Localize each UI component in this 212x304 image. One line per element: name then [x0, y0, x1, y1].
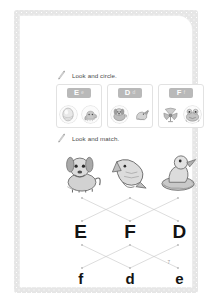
letter-tag-e: E e	[67, 88, 91, 98]
instruction-look-and-match: Look and match.	[56, 133, 119, 144]
letter-card-pictures	[159, 100, 203, 128]
letter-card-f[interactable]: F f	[158, 84, 204, 128]
worksheet-page: Look and circle. E e	[0, 0, 212, 304]
uppercase-letter-0[interactable]: E	[56, 222, 105, 242]
lowercase-letter-0[interactable]: f	[56, 271, 105, 289]
uppercase-letter-1[interactable]: F	[105, 222, 154, 242]
instruction-2-text: Look and match.	[72, 135, 119, 142]
uppercase-letter-2[interactable]: D	[155, 222, 204, 242]
letter-tag-lowercase: f	[183, 90, 185, 95]
match-lines-upper	[56, 196, 204, 224]
frog-picture[interactable]	[183, 105, 202, 124]
worksheet-sheet: Look and circle. E e	[20, 16, 192, 287]
letter-tag-f: F f	[169, 88, 193, 98]
dog-illustration[interactable]	[60, 150, 104, 194]
letter-card-pictures	[108, 100, 152, 128]
fan-picture[interactable]	[161, 105, 180, 124]
pencil-icon	[56, 133, 67, 144]
dog-picture[interactable]	[110, 105, 129, 124]
duck-picture[interactable]	[132, 105, 151, 124]
instruction-look-and-circle: Look and circle.	[56, 70, 117, 81]
lowercase-letter-row: f d e	[56, 271, 204, 289]
elephant-picture[interactable]	[81, 105, 100, 124]
pencil-icon	[56, 70, 67, 81]
letter-tag-uppercase: D	[125, 89, 130, 97]
lowercase-letter-1[interactable]: d	[105, 271, 154, 289]
letter-card-pictures	[57, 100, 101, 128]
letter-card-e[interactable]: E e	[56, 84, 102, 128]
letter-tag-lowercase: d	[132, 90, 135, 95]
duck-illustration[interactable]	[156, 150, 200, 194]
fish-illustration[interactable]	[108, 150, 152, 194]
letter-tag-uppercase: E	[74, 89, 79, 97]
uppercase-letter-row: E F D	[56, 222, 204, 242]
match-lines-lower	[56, 243, 204, 271]
circle-task-cards: E e	[56, 84, 204, 128]
match-task-pictures	[56, 150, 204, 196]
letter-tag-lowercase: e	[81, 90, 84, 95]
letter-card-d[interactable]: D d	[107, 84, 153, 128]
letter-tag-uppercase: F	[177, 89, 182, 97]
letter-tag-d: D d	[118, 88, 142, 98]
instruction-1-text: Look and circle.	[72, 72, 117, 79]
egg-picture[interactable]	[59, 105, 78, 124]
page-number: 7	[167, 260, 170, 265]
lowercase-letter-2[interactable]: e	[155, 271, 204, 289]
